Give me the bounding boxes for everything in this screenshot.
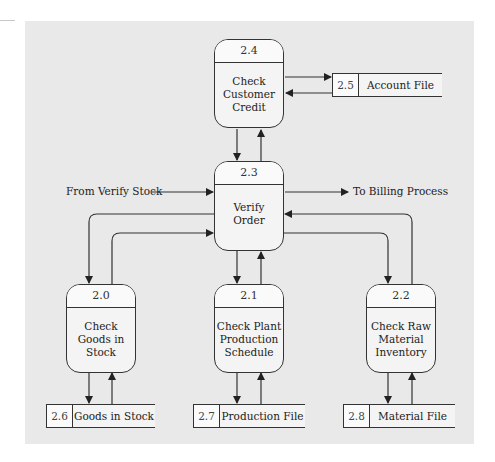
store-account-file[interactable]: 2.5 Account File [332,73,442,97]
store-name: Goods in Stock [73,405,155,427]
process-label-line: Schedule [215,346,283,359]
process-id: 2.1 [215,285,283,308]
process-id: 2.4 [215,40,283,63]
store-id: 2.8 [344,405,370,427]
process-label: Check Customer Credit [215,63,283,114]
process-verify-order[interactable]: 2.3 Verify Order [214,161,284,251]
store-name: Material File [370,405,455,427]
process-label: Verify Order [215,185,283,227]
process-label-line: Material [367,333,435,346]
store-name: Account File [359,74,442,96]
process-label: Check Goods in Stock [67,308,135,359]
store-id: 2.7 [194,405,220,427]
process-label-line: Check Plant [215,320,283,333]
external-flow-out-label: To Billing Process [353,185,448,197]
process-label-line: Check Raw [367,320,435,333]
process-id: 2.2 [367,285,435,308]
process-label: Check Plant Production Schedule [215,308,283,359]
process-label-line: Stock [67,346,135,359]
process-check-goods-in-stock[interactable]: 2.0 Check Goods in Stock [66,284,136,373]
store-production-file[interactable]: 2.7 Production File [193,404,305,428]
external-flow-in-label: From Verify Stock [66,185,162,197]
process-label: Check Raw Material Inventory [367,308,435,359]
store-material-file[interactable]: 2.8 Material File [343,404,455,428]
process-check-raw-material-inventory[interactable]: 2.2 Check Raw Material Inventory [366,284,436,373]
process-id: 2.0 [67,285,135,308]
process-label-line: Check [215,75,283,88]
process-label-line: Verify [215,201,283,214]
store-goods-in-stock[interactable]: 2.6 Goods in Stock [46,404,155,428]
process-id: 2.3 [215,162,283,185]
store-id: 2.6 [47,405,73,427]
process-label-line: Production [215,333,283,346]
process-check-customer-credit[interactable]: 2.4 Check Customer Credit [214,39,284,128]
process-label-line: Inventory [367,346,435,359]
process-label-line: Goods in [67,333,135,346]
store-id: 2.5 [333,74,359,96]
process-label-line: Customer [215,88,283,101]
process-label-line: Credit [215,101,283,114]
process-label-line: Order [215,214,283,227]
store-name: Production File [220,405,305,427]
process-check-plant-production-schedule[interactable]: 2.1 Check Plant Production Schedule [214,284,284,373]
process-label-line: Check [67,320,135,333]
